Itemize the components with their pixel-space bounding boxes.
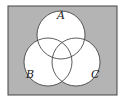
label-a: A	[56, 9, 65, 22]
label-c: C	[91, 68, 100, 81]
label-b: B	[25, 68, 34, 81]
venn-diagram: A B C	[0, 0, 121, 99]
